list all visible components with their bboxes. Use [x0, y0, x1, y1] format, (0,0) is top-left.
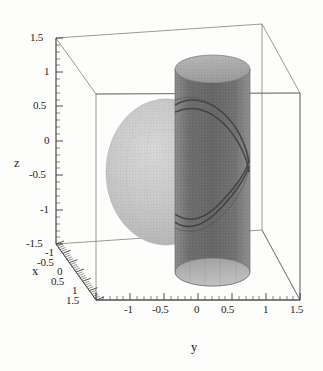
plot-3d-figure: 1.5 1 0.5 0 -0.5 -1 -1.5 z -1 -0.5 0 0.5…: [0, 0, 323, 371]
z-axis-ticks: [56, 38, 63, 244]
y-axis-title: y: [191, 340, 197, 355]
z-tick-label: -1: [40, 203, 49, 215]
y-tick-label: 0.5: [221, 303, 234, 315]
x-tick-label: -0.5: [37, 256, 54, 268]
z-tick-label: 0.5: [33, 99, 46, 111]
z-tick-label: 0: [44, 134, 49, 146]
y-tick-label: 1: [263, 303, 268, 315]
x-axis-ticks: [56, 241, 104, 300]
z-tick-label: 1: [44, 65, 49, 77]
plot-canvas: [0, 0, 323, 371]
y-tick-label: -1: [124, 303, 133, 315]
x-tick-label: 0.5: [51, 275, 64, 287]
y-tick-label: 0: [194, 303, 199, 315]
x-tick-label: 1.5: [66, 294, 79, 306]
z-tick-label: -0.5: [29, 168, 46, 180]
x-axis-title: x: [32, 264, 38, 279]
z-tick-label: 1.5: [30, 31, 43, 43]
y-tick-label: 1.5: [290, 303, 303, 315]
z-tick-label: -1.5: [26, 237, 43, 249]
y-axis-ticks: [96, 293, 300, 300]
cylinder-surface: [175, 55, 250, 286]
z-axis-title: z: [14, 156, 20, 171]
y-tick-label: -0.5: [152, 303, 169, 315]
